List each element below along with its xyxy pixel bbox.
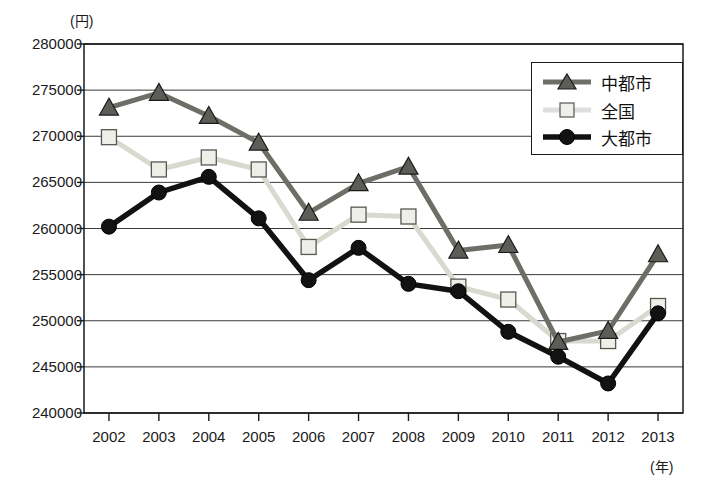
legend-item-big-city: 大都市 <box>541 124 652 150</box>
data-point-marker <box>201 169 216 184</box>
y-axis-tick-label: 270000 <box>12 128 82 143</box>
data-point-marker <box>251 211 266 226</box>
data-point-marker <box>351 207 366 222</box>
legend-item-national: 全国 <box>541 97 635 123</box>
y-axis-tick-label: 245000 <box>12 359 82 374</box>
data-point-marker <box>151 162 166 177</box>
data-point-marker <box>149 83 168 100</box>
data-point-marker <box>101 219 116 234</box>
legend-marker-triangle-icon <box>541 71 593 93</box>
legend-marker-square-icon <box>541 99 593 121</box>
y-axis-tick-label: 255000 <box>12 267 82 282</box>
legend-item-mid-city: 中都市 <box>541 69 652 95</box>
data-point-marker <box>301 273 316 288</box>
series-line <box>109 137 658 341</box>
y-axis-tick-label: 265000 <box>12 174 82 189</box>
data-point-marker <box>501 292 516 307</box>
series-circle <box>101 169 665 391</box>
data-point-marker <box>501 324 516 339</box>
y-axis-tick-label: 260000 <box>12 221 82 236</box>
legend-marker-circle-icon <box>541 126 593 148</box>
data-point-marker <box>301 239 316 254</box>
data-point-marker <box>551 349 566 364</box>
series-line <box>109 177 658 384</box>
data-point-marker <box>651 306 666 321</box>
data-point-marker <box>351 240 366 255</box>
series-square <box>101 130 665 349</box>
y-axis-tick-labels: 2800002750002700002650002600002550002500… <box>12 0 82 483</box>
legend-label-national: 全国 <box>601 98 635 123</box>
data-point-marker <box>251 162 266 177</box>
data-point-marker <box>101 130 116 145</box>
data-point-marker <box>401 276 416 291</box>
y-axis-tick-label: 275000 <box>12 82 82 97</box>
y-axis-tick-label: 240000 <box>12 405 82 420</box>
line-chart: (円) (年) 28000027500027000026500026000025… <box>0 0 705 483</box>
data-point-marker <box>601 376 616 391</box>
data-point-marker <box>151 185 166 200</box>
legend-label-big-city: 大都市 <box>601 125 652 150</box>
data-point-marker <box>451 284 466 299</box>
y-axis-tick-label: 250000 <box>12 313 82 328</box>
y-axis-tick-label: 280000 <box>12 36 82 51</box>
data-point-marker <box>401 209 416 224</box>
x-axis-tick-label: 2013 <box>628 428 688 445</box>
data-point-marker <box>399 157 418 174</box>
legend: 中都市 全国 大都市 <box>531 62 683 155</box>
data-point-marker <box>649 245 668 262</box>
legend-label-mid-city: 中都市 <box>601 70 652 95</box>
data-point-marker <box>201 150 216 165</box>
x-axis-unit-label: (年) <box>650 456 673 476</box>
